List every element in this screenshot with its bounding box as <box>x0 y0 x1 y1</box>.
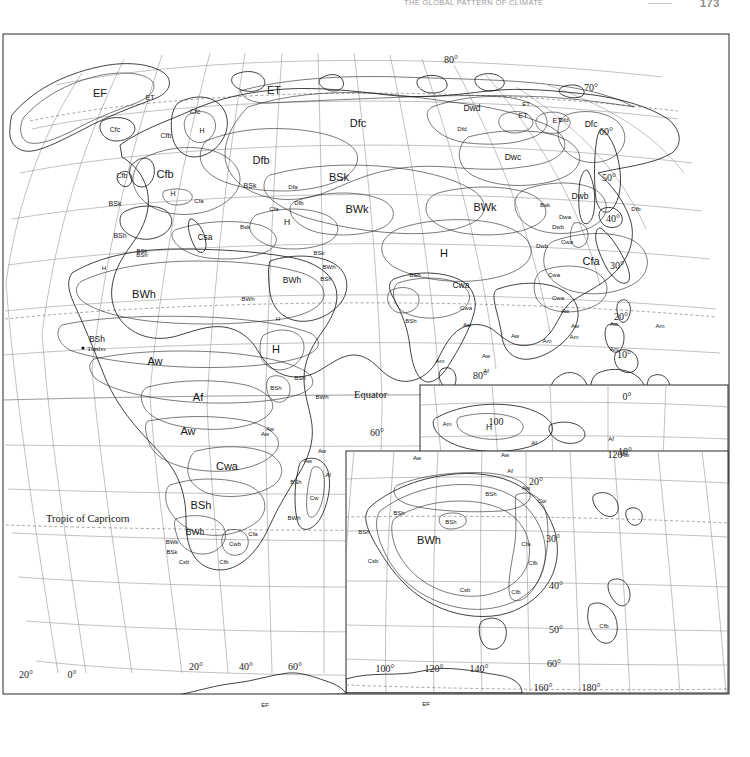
climate-label-h-9: H <box>199 127 204 134</box>
header-rule <box>648 3 672 4</box>
climate-label-am-63: Am <box>610 346 619 352</box>
climate-label-bsh-69: BSh <box>89 334 105 344</box>
climate-label-csa-29: Csa <box>197 232 212 242</box>
climate-label-am-51: Am <box>436 358 445 364</box>
climate-label-bwh-68: BWh <box>241 296 254 302</box>
climate-label-cfb-89: Cfb <box>219 559 229 565</box>
graticule-label-7: 10° <box>617 349 631 360</box>
climate-label-bsh-19: BSh <box>113 232 126 239</box>
climate-label-bwh-45: BWh <box>322 264 335 270</box>
climate-label-cfa-41: Cfa <box>582 255 600 267</box>
climate-label-aw-72: Aw <box>147 355 162 367</box>
climate-label-cfb-8: Cfb <box>161 132 172 139</box>
climate-label-bsk-28: Bsk <box>240 224 251 230</box>
climate-label-cwa-81: Cwa <box>216 460 239 472</box>
climate-label-cwa-40: Cwa <box>561 239 574 245</box>
climate-label-cfa-90: Cfa <box>248 531 258 537</box>
graticule-label-14: 0° <box>68 669 77 680</box>
climate-label-bsh-76: BSh <box>294 375 305 381</box>
graticule-label-28: 60° <box>370 427 384 438</box>
climate-label-csb-113: Csb <box>460 587 471 593</box>
climate-label-csb-110: Csb <box>368 558 379 564</box>
climate-label-bsk-87: BSk <box>166 549 178 555</box>
graticule-label-23: 20° <box>529 476 543 487</box>
climate-label-cw-105: Cw <box>538 498 547 504</box>
climate-label-am-62: Am <box>656 323 665 329</box>
climate-label-bsk-35: Bsk <box>540 202 551 208</box>
climate-label-dfd-13: Dfd <box>559 117 568 123</box>
graticule-label-19: 120° <box>425 663 444 674</box>
graticule-label-3: 50° <box>602 172 616 183</box>
climate-label-aw-79: Aw <box>180 425 195 437</box>
climate-label-h-42: H <box>440 247 448 259</box>
climate-label-bsh-109: BSh <box>358 529 369 535</box>
climate-label-aw-52: Aw <box>482 353 491 359</box>
climate-label-af-102: Af <box>507 468 513 474</box>
climate-label-bsk-24: BSk <box>244 182 257 189</box>
climate-label-h-98: H <box>486 422 492 432</box>
climate-label-af-93: Af <box>325 472 331 478</box>
climate-label-am-97: Am <box>443 421 452 427</box>
graticule-label-0: 80° <box>444 54 458 65</box>
climate-label-bwk-31: BWk <box>345 203 369 215</box>
climate-label-dfb-38: Dfb <box>631 206 641 212</box>
climate-label-bsh-77: BSh <box>270 385 281 391</box>
climate-label-bwh-78: BWh <box>315 394 328 400</box>
graticule-label-24: 30° <box>546 533 560 544</box>
header-title: The Global Pattern of Climate <box>404 0 543 7</box>
climate-label-dwc-15: Dwc <box>505 152 522 162</box>
climate-label-dfc-10: Dfc <box>350 117 367 129</box>
climate-label-ef-117: EF <box>422 701 430 707</box>
climate-label-bsh-43: BSh <box>409 272 420 278</box>
climate-label-dfc-14: Dfc <box>585 119 599 129</box>
climate-label-bsh-106: BSh <box>393 510 404 516</box>
climate-label-h-70: H <box>102 265 106 271</box>
climate-label-dfb-16: Dfb <box>252 154 269 166</box>
climate-label-aw-61: Aw <box>610 321 619 327</box>
climate-label-cfa-111: Cfa <box>521 541 531 547</box>
graticule-label-26: 50° <box>549 624 563 635</box>
graticule-label-16: 40° <box>239 661 253 672</box>
climate-label-dwa-36: Dwa <box>559 214 572 220</box>
feature-label-equator: Equator <box>354 389 388 400</box>
climate-label-ef-0: EF <box>93 87 107 99</box>
climate-label-bsh-49: BSh <box>405 318 416 324</box>
climate-label-cfb-115: Cfb <box>599 623 609 629</box>
graticule-label-5: 30° <box>610 260 624 271</box>
climate-label-cfb-21: Cfb <box>156 168 173 180</box>
climate-label-cfb-17: Cfb <box>117 172 128 179</box>
climate-label-bwh-67: BWh <box>283 275 302 285</box>
climate-label-aw-82: Aw <box>261 431 270 437</box>
climate-label-bsh-94: BSh <box>290 479 301 485</box>
climate-label-cfb-112: Cfb <box>528 560 538 566</box>
climate-label-aw-54: Aw <box>511 333 520 339</box>
climate-label-bwh-108: BWh <box>417 534 441 546</box>
climate-label-dfa-25: Dfa <box>288 184 298 190</box>
climate-label-aw-65: Aw <box>621 452 630 458</box>
climate-label-bwh-85: BWh <box>186 527 205 537</box>
feature-label-tropic-of-capricorn: Tropic of Capricorn <box>46 513 130 524</box>
climate-label-cwa-47: Cwa <box>452 280 469 290</box>
climate-label-bsh-71: BSh <box>136 252 147 258</box>
climate-label-cwa-57: Cwa <box>552 295 565 301</box>
climate-label-et-2: ET <box>267 84 281 96</box>
climate-label-bwh-66: BWh <box>132 288 156 300</box>
climate-label-cfc-6: Cfc <box>190 108 201 115</box>
australia-inset <box>344 451 728 693</box>
map-frame: 80°70°60°50°40°30°20°10°0°10°80°100120°2… <box>2 33 730 725</box>
graticule-label-13: 20° <box>19 669 33 680</box>
climate-label-aw-58: Aw <box>561 308 570 314</box>
climate-map-svg: 80°70°60°50°40°30°20°10°0°10°80°100120°2… <box>2 33 730 725</box>
climate-label-am-60: Am <box>570 334 579 340</box>
climate-label-bsh-107: BSh <box>445 519 456 525</box>
city-label-timbo: Timbo <box>87 345 106 353</box>
graticule-label-1: 70° <box>584 82 598 93</box>
page-number: 173 <box>700 0 720 9</box>
climate-label-aw-91: Aw <box>318 448 327 454</box>
climate-label-aw-59: Aw <box>571 323 580 329</box>
climate-label-dwb-34: Dwb <box>571 191 588 201</box>
climate-label-bsk-30: BSk <box>329 171 350 183</box>
climate-label-cwb-84: Cwb <box>229 541 242 547</box>
climate-label-dwb-37: Dwb <box>552 224 565 230</box>
climate-label-bwk-32: BWk <box>473 201 497 213</box>
